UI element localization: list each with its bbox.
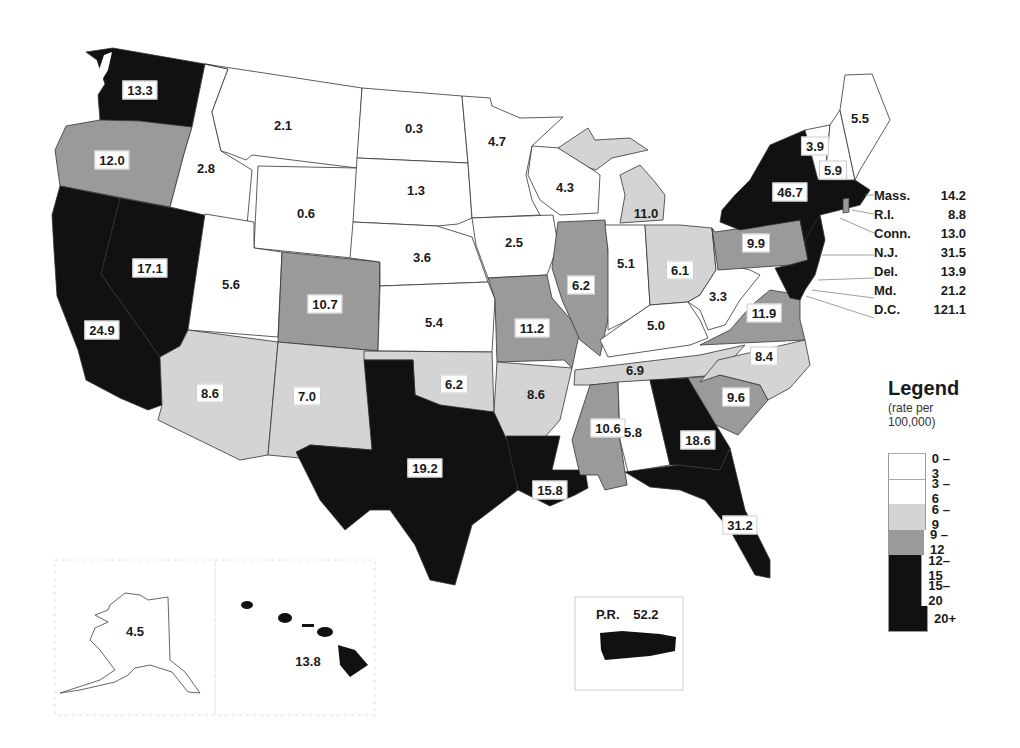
label-mt: 2.1	[274, 118, 292, 133]
small-state-name: N.J.	[874, 245, 926, 260]
label-wa: 13.3	[122, 81, 157, 100]
small-state-name: Del.	[874, 264, 926, 279]
label-va: 11.9	[747, 304, 782, 323]
legend-label: 15–20	[928, 578, 959, 608]
hawaii-inset-frame	[215, 560, 375, 715]
legend-label: 20+	[934, 611, 956, 626]
label-nh: 5.9	[819, 161, 847, 180]
label-fl: 31.2	[722, 516, 757, 535]
label-tx: 19.2	[407, 459, 442, 478]
small-state-row: D.C.121.1	[874, 300, 966, 319]
small-state-row: Mass.14.2	[874, 186, 966, 205]
label-ms: 10.6	[590, 419, 625, 438]
label-id: 2.8	[197, 161, 215, 176]
label-az: 8.6	[196, 384, 224, 403]
legend-swatch	[888, 530, 924, 556]
legend-item: 20+	[888, 606, 959, 632]
label-la: 15.8	[532, 481, 567, 500]
legend-item: 0 – 3	[888, 453, 959, 479]
label-mo: 11.2	[515, 319, 550, 338]
label-ak: 4.5	[126, 624, 144, 639]
legend-swatch	[888, 504, 926, 530]
legend-swatch	[888, 479, 926, 505]
small-state-value: 13.0	[926, 226, 966, 241]
small-state-value: 13.9	[926, 264, 966, 279]
pr-name: P.R.	[596, 607, 620, 622]
label-al: 5.8	[624, 425, 642, 440]
label-pa: 9.9	[742, 234, 770, 253]
label-ok: 6.2	[440, 375, 468, 394]
label-mi: 11.0	[634, 206, 659, 221]
pr-label: P.R. 52.2	[596, 607, 659, 622]
legend-scale: 0 – 3 3 – 6 6 – 9 9 –12 12–15 15–20 20+	[888, 453, 959, 632]
small-states-list: Mass.14.2 R.I.8.8 Conn.13.0 N.J.31.5 Del…	[874, 186, 966, 319]
label-ca: 24.9	[84, 321, 119, 340]
legend: Legend (rate per 100,000) 0 – 3 3 – 6 6 …	[888, 377, 959, 429]
legend-swatch	[888, 555, 922, 581]
legend-subtitle-line2: 100,000)	[888, 415, 959, 429]
label-oh: 6.1	[666, 261, 694, 280]
small-state-row: Conn.13.0	[874, 224, 966, 243]
legend-subtitle-line1: (rate per	[888, 401, 959, 415]
label-ia: 2.5	[505, 235, 523, 250]
small-state-value: 8.8	[926, 207, 966, 222]
small-state-value: 121.1	[926, 302, 966, 317]
legend-item: 15–20	[888, 581, 959, 607]
legend-swatch	[888, 581, 922, 607]
pr-value: 52.2	[633, 607, 658, 622]
label-il: 6.2	[567, 276, 595, 295]
legend-item: 6 – 9	[888, 504, 959, 530]
legend-item: 9 –12	[888, 530, 959, 556]
state-ri	[843, 198, 849, 213]
label-wi: 4.3	[556, 180, 574, 195]
small-state-row: Md.21.2	[874, 281, 966, 300]
small-state-value: 31.5	[926, 245, 966, 260]
small-state-name: Md.	[874, 283, 926, 298]
legend-swatch	[888, 453, 926, 479]
label-ga: 18.6	[680, 431, 715, 450]
label-ar: 8.6	[527, 387, 545, 402]
label-ut: 5.6	[222, 277, 240, 292]
small-state-name: Conn.	[874, 226, 926, 241]
label-tn: 6.9	[626, 363, 644, 378]
label-ky: 5.0	[647, 318, 665, 333]
small-state-name: D.C.	[874, 302, 926, 317]
small-state-name: R.I.	[874, 207, 926, 222]
legend-swatch	[888, 606, 928, 632]
label-ny: 46.7	[772, 183, 807, 202]
label-vt: 3.9	[801, 137, 829, 156]
small-state-row: N.J.31.5	[874, 243, 966, 262]
state-nm	[268, 342, 378, 458]
label-me: 5.5	[851, 111, 869, 126]
label-nv: 17.1	[132, 259, 167, 278]
small-state-value: 21.2	[926, 283, 966, 298]
label-sc: 9.6	[722, 388, 750, 407]
label-nm: 7.0	[293, 387, 321, 406]
territory-pr	[600, 631, 676, 660]
label-wv: 3.3	[709, 289, 727, 304]
label-wy: 0.6	[297, 206, 315, 221]
state-ak	[60, 593, 200, 693]
legend-item: 3 – 6	[888, 479, 959, 505]
label-in: 5.1	[617, 256, 635, 271]
state-mt	[205, 64, 362, 168]
small-state-row: Del.13.9	[874, 262, 966, 281]
label-co: 10.7	[307, 295, 342, 314]
small-state-value: 14.2	[926, 188, 966, 203]
label-ks: 5.4	[425, 315, 443, 330]
small-state-row: R.I.8.8	[874, 205, 966, 224]
legend-title: Legend	[888, 377, 959, 399]
small-state-name: Mass.	[874, 188, 926, 203]
legend-subtitle: (rate per 100,000)	[888, 401, 959, 429]
label-sd: 1.3	[407, 183, 425, 198]
label-or: 12.0	[94, 151, 129, 170]
label-ne: 3.6	[413, 250, 431, 265]
label-hi: 13.8	[295, 654, 320, 669]
legend-item: 12–15	[888, 555, 959, 581]
label-nd: 0.3	[405, 121, 423, 136]
label-mn: 4.7	[488, 134, 506, 149]
label-nc: 8.4	[750, 347, 778, 366]
